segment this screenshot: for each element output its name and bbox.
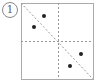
scatter-diagram xyxy=(0,0,97,82)
data-point xyxy=(42,14,46,18)
data-point xyxy=(79,52,83,56)
data-point xyxy=(68,64,72,68)
data-point xyxy=(32,25,36,29)
